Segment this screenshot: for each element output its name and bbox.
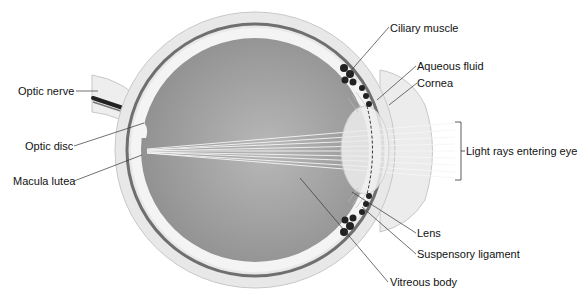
label-lens: Lens <box>417 227 441 239</box>
label-macula-lutea: Macula lutea <box>13 175 75 187</box>
label-optic-nerve: Optic nerve <box>18 85 74 97</box>
label-suspensory-ligament: Suspensory ligament <box>417 248 520 260</box>
label-vitreous-body: Vitreous body <box>390 276 457 288</box>
label-light-rays: Light rays entering eye <box>466 145 577 157</box>
light-rays-bracket <box>455 122 465 180</box>
label-cornea: Cornea <box>417 77 453 89</box>
label-ciliary-muscle: Ciliary muscle <box>390 22 458 34</box>
lens-shape <box>341 106 389 194</box>
label-aqueous-fluid: Aqueous fluid <box>417 60 484 72</box>
label-optic-disc: Optic disc <box>25 140 73 152</box>
